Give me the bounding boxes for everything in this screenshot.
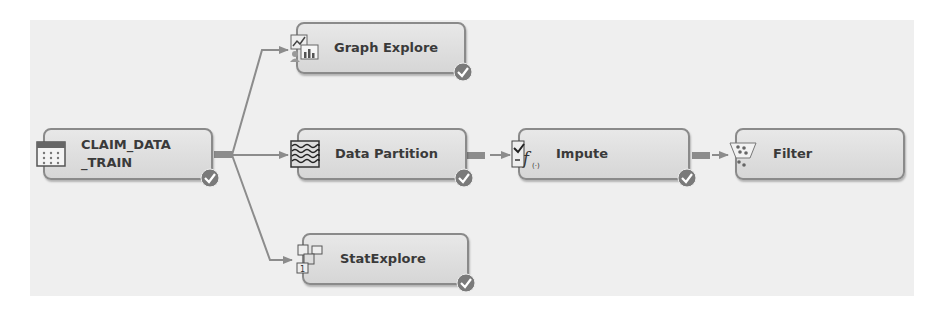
node-label: Data Partition <box>335 145 438 163</box>
graph-explore-icon <box>288 32 320 64</box>
edge-claim-to-stat-explore <box>232 155 292 260</box>
node-label: Filter <box>773 145 812 163</box>
filter-icon <box>727 138 759 170</box>
completed-check-icon <box>456 273 476 293</box>
edge-claim-to-graph-explore <box>232 50 288 155</box>
node-label: StatExplore <box>340 250 426 268</box>
impute-icon: f (·) <box>510 138 542 170</box>
completed-check-icon <box>454 168 474 188</box>
node-label: Graph Explore <box>334 39 438 57</box>
node-filter[interactable]: Filter <box>735 128 905 180</box>
output-port[interactable] <box>467 152 485 159</box>
svg-text:1: 1 <box>300 265 305 274</box>
completed-check-icon <box>200 168 220 188</box>
completed-check-icon <box>677 168 697 188</box>
stat-explore-icon: 1 <box>294 243 326 275</box>
node-data-partition[interactable]: Data Partition <box>297 128 467 180</box>
data-source-table-icon <box>35 138 67 170</box>
node-graph-explore[interactable]: Graph Explore <box>296 22 466 74</box>
output-port[interactable] <box>214 151 232 158</box>
node-label: Impute <box>556 145 608 163</box>
node-label: CLAIM_DATA _TRAIN <box>81 136 171 172</box>
output-port[interactable] <box>692 152 710 159</box>
node-stat-explore[interactable]: 1 StatExplore <box>302 233 469 285</box>
node-claim-data-train[interactable]: CLAIM_DATA _TRAIN <box>43 128 213 180</box>
data-partition-icon <box>289 138 321 170</box>
completed-check-icon <box>453 62 473 82</box>
node-impute[interactable]: f (·) Impute <box>518 128 690 180</box>
svg-text:(·): (·) <box>532 162 540 170</box>
svg-text:f: f <box>522 149 532 168</box>
